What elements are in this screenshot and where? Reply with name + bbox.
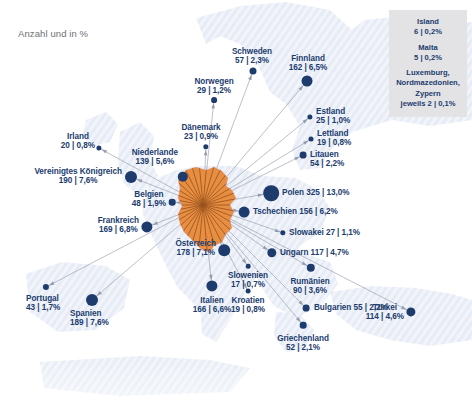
country-label-litauen: Litauen54 | 2,2% — [310, 150, 344, 168]
country-value: 114 | 4,6% — [366, 312, 404, 321]
country-label-rum-nien: Rumänien90 | 3,6% — [290, 277, 329, 295]
country-label-irland: Irland20 | 0,8% — [61, 132, 95, 150]
country-dot-tschechien[interactable] — [239, 207, 250, 218]
country-name: Bulgarien — [314, 303, 351, 312]
country-label-ungarn: Ungarn 117 | 4,7% — [280, 248, 349, 257]
country-value: 189 | 7,6% — [70, 318, 109, 327]
legend-country-value-island: 6 | 0,2% — [393, 27, 463, 37]
country-value: 52 | 2,1% — [277, 343, 329, 352]
legend-group-name-luxemburg: Luxemburg, — [393, 68, 463, 78]
country-name: Polen — [282, 188, 304, 197]
country-name: Österreich — [176, 239, 216, 248]
legend-group-name-nordmazedonien: Nordmazedonien, — [393, 78, 463, 88]
country-value: 162 | 6,5% — [289, 63, 328, 72]
country-name: Frankreich — [98, 216, 139, 225]
country-value: 90 | 3,6% — [290, 286, 329, 295]
country-value: 169 | 6,8% — [98, 225, 139, 234]
legend-group-value: jeweils 2 | 0,1% — [393, 99, 463, 109]
country-dot-vereinigtes-k-nigreich[interactable] — [125, 171, 137, 183]
country-value: 57 | 2,3% — [232, 56, 272, 65]
country-label-spanien: Spanien189 | 7,6% — [70, 309, 109, 327]
country-dot-finnland[interactable] — [302, 76, 313, 87]
country-value: 20 | 0,8% — [61, 141, 95, 150]
infographic-map: Anzahl und in % Island 6 | 0,2% Malta 5 … — [0, 0, 472, 408]
legend-country-name-island: Island — [393, 17, 463, 27]
country-value: 48 | 1,9% — [132, 199, 166, 208]
country-label-vereinigtes-k-nigreich: Vereinigtes Königreich190 | 7,6% — [34, 167, 122, 185]
country-dot-kroatien[interactable] — [246, 289, 251, 294]
country-name: Rumänien — [290, 277, 329, 286]
country-label-frankreich: Frankreich169 | 6,8% — [98, 216, 139, 234]
country-label-t-rkei: Türkei114 | 4,6% — [366, 303, 404, 321]
small-countries-legend: Island 6 | 0,2% Malta 5 | 0,2% Luxemburg… — [389, 10, 467, 117]
country-value: 19 | 0,8% — [317, 138, 351, 147]
country-label-tschechien: Tschechien 156 | 6,2% — [253, 207, 338, 216]
country-name: Norwegen — [194, 77, 233, 86]
country-value: 139 | 5,6% — [132, 157, 178, 166]
country-label-slowenien: Slowenien17 | 0,7% — [228, 271, 268, 289]
country-label-lettland: Lettland19 | 0,8% — [317, 129, 351, 147]
country-value: 156 | 6,2% — [299, 207, 338, 216]
country-name: Schweden — [232, 47, 272, 56]
country-value: 25 | 1,0% — [316, 116, 350, 125]
country-name: Dänemark — [181, 123, 220, 132]
country-label-schweden: Schweden57 | 2,3% — [232, 47, 272, 65]
country-dot-spanien[interactable] — [86, 294, 98, 306]
country-name: Finnland — [289, 54, 328, 63]
country-name: Spanien — [70, 309, 109, 318]
country-dot-bulgarien[interactable] — [303, 305, 310, 312]
country-name: Estland — [316, 107, 350, 116]
country-label-belgien: Belgien48 | 1,9% — [132, 190, 166, 208]
country-label--sterreich: Österreich178 | 7,1% — [176, 239, 216, 257]
country-label-finnland: Finnland162 | 6,5% — [289, 54, 328, 72]
country-value: 27 | 1,1% — [326, 228, 360, 237]
country-dot-litauen[interactable] — [300, 152, 307, 159]
country-label-italien: Italien166 | 6,6% — [193, 296, 232, 314]
country-name: Lettland — [317, 129, 351, 138]
country-value: 23 | 0,9% — [181, 132, 220, 141]
country-label-d-nemark: Dänemark23 | 0,9% — [181, 123, 220, 141]
country-name: Niederlande — [132, 148, 178, 157]
country-dot-slowenien[interactable] — [246, 264, 251, 269]
country-name: Belgien — [132, 190, 166, 199]
country-dot-polen[interactable] — [263, 185, 279, 201]
legend-country-value-malta: 5 | 0,2% — [393, 53, 463, 63]
country-value: 178 | 7,1% — [176, 248, 216, 257]
country-name: Slowakei — [289, 228, 324, 237]
legend-group-name-zypern: Zypern — [393, 89, 463, 99]
country-value: 117 | 4,7% — [311, 248, 349, 257]
country-label-portugal: Portugal43 | 1,7% — [26, 294, 60, 312]
page-title: Anzahl und in % — [18, 28, 88, 39]
country-value: 190 | 7,6% — [34, 176, 122, 185]
country-dot-belgien[interactable] — [169, 199, 176, 206]
country-dot--sterreich[interactable] — [218, 244, 230, 256]
country-value: 29 | 1,2% — [194, 86, 233, 95]
country-label-estland: Estland25 | 1,0% — [316, 107, 350, 125]
country-name: Griechenland — [277, 334, 329, 343]
country-value: 43 | 1,7% — [26, 303, 60, 312]
legend-country-name-malta: Malta — [393, 43, 463, 53]
country-label-polen: Polen 325 | 13,0% — [282, 188, 349, 197]
country-name: Irland — [61, 132, 95, 141]
country-label-niederlande: Niederlande139 | 5,6% — [132, 148, 178, 166]
country-name: Slowenien — [228, 271, 268, 280]
country-name: Italien — [193, 296, 232, 305]
country-value: 166 | 6,6% — [193, 305, 232, 314]
country-name: Portugal — [26, 294, 60, 303]
country-value: 325 | 13,0% — [306, 188, 349, 197]
country-value: 19 | 0,8% — [231, 305, 265, 314]
country-label-norwegen: Norwegen29 | 1,2% — [194, 77, 233, 95]
country-dot-griechenland[interactable] — [300, 322, 307, 329]
country-label-kroatien: Kroatien19 | 0,8% — [231, 296, 265, 314]
country-label-slowakei: Slowakei 27 | 1,1% — [289, 228, 360, 237]
country-dot-norwegen[interactable] — [211, 97, 217, 103]
country-name: Litauen — [310, 150, 344, 159]
country-name: Vereinigtes Königreich — [34, 167, 122, 176]
country-label-griechenland: Griechenland52 | 2,1% — [277, 334, 329, 352]
country-name: Tschechien — [253, 207, 297, 216]
country-name: Türkei — [366, 303, 404, 312]
country-dot-lettland[interactable] — [309, 137, 314, 142]
country-dot-schweden[interactable] — [250, 68, 257, 75]
country-name: Ungarn — [280, 248, 308, 257]
country-name: Kroatien — [231, 296, 265, 305]
